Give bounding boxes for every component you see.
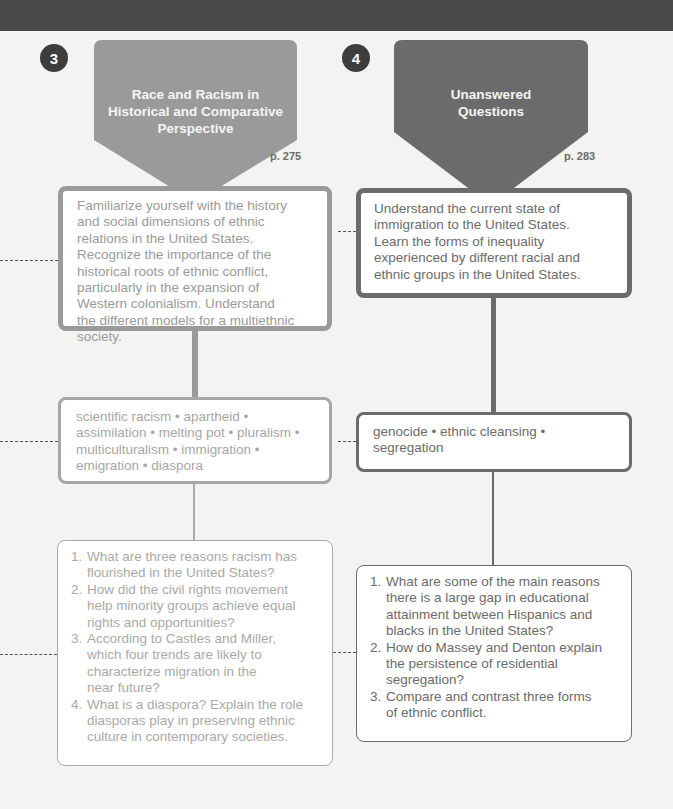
connector-line xyxy=(193,484,195,541)
page-reference: p. 275 xyxy=(270,150,301,162)
question-item: 1. What are three reasons racism has flo… xyxy=(71,549,332,582)
question-item: 4. What is a diaspora? Explain the role … xyxy=(71,697,332,746)
question-item: 3. According to Castles and Miller, whic… xyxy=(71,631,332,697)
dashed-connector xyxy=(333,652,356,653)
connector-line xyxy=(188,163,198,187)
top-banner xyxy=(0,0,673,31)
dashed-connector xyxy=(338,441,356,442)
connector-line xyxy=(492,472,494,566)
learning-objective-box: Familiarize yourself with the history an… xyxy=(58,186,332,331)
review-questions-box: 1. What are some of the main reasons the… xyxy=(356,565,632,742)
question-item: 1. What are some of the main reasons the… xyxy=(370,574,631,640)
question-list: 1. What are three reasons racism has flo… xyxy=(71,549,332,746)
page-reference: p. 283 xyxy=(564,150,595,162)
dashed-connector xyxy=(0,260,58,261)
key-terms-box: genocide • ethnic cleansing • segregatio… xyxy=(356,412,632,472)
section-title: Race and Racism in Historical and Compar… xyxy=(94,86,297,137)
section-title: Unanswered Questions xyxy=(394,86,588,120)
question-list: 1. What are some of the main reasons the… xyxy=(370,574,631,722)
section-number-badge: 4 xyxy=(342,44,370,72)
dashed-connector xyxy=(338,231,356,232)
question-item: 2. How do Massey and Denton explain the … xyxy=(370,640,631,689)
dashed-connector xyxy=(0,441,58,442)
section-number-badge: 3 xyxy=(40,44,68,72)
dashed-connector xyxy=(0,654,57,655)
connector-line xyxy=(192,331,198,398)
connector-line xyxy=(486,165,496,189)
connector-line xyxy=(491,298,496,413)
question-item: 3. Compare and contrast three forms of e… xyxy=(370,689,631,722)
review-questions-box: 1. What are three reasons racism has flo… xyxy=(57,540,333,766)
question-item: 2. How did the civil rights movement hel… xyxy=(71,582,332,631)
learning-objective-box: Understand the current state of immigrat… xyxy=(356,188,632,298)
key-terms-box: scientific racism • apartheid • assimila… xyxy=(58,397,332,484)
